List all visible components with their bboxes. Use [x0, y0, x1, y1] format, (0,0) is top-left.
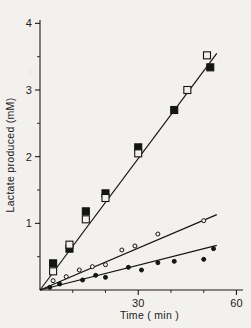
- data-point-filled-circles: [48, 285, 52, 289]
- series-filled-circles: [48, 247, 216, 290]
- y-axis-tick-label: 4: [26, 17, 32, 29]
- data-point-filled-squares: [207, 64, 214, 71]
- series-open-squares: [50, 52, 211, 275]
- data-point-open-squares: [102, 195, 109, 202]
- data-point-open-squares: [66, 241, 73, 248]
- data-point-filled-squares: [82, 208, 89, 215]
- data-point-open-circles: [90, 265, 94, 269]
- data-point-open-squares: [82, 216, 89, 223]
- data-point-open-squares: [184, 87, 191, 94]
- data-point-open-squares: [203, 52, 210, 59]
- data-point-filled-circles: [202, 257, 206, 261]
- series-open-circles: [51, 219, 206, 283]
- x-axis-tick-label: 60: [230, 297, 243, 309]
- data-point-filled-circles: [81, 278, 85, 282]
- data-point-filled-circles: [126, 265, 130, 269]
- data-point-open-circles: [202, 219, 206, 223]
- y-axis-title: Lactate produced (mM): [4, 98, 16, 213]
- data-point-filled-circles: [94, 273, 98, 277]
- data-point-open-circles: [156, 232, 160, 236]
- data-point-open-circles: [103, 263, 107, 267]
- lactate-production-scatter-plot: 12343060Time ( min )Lactate produced (mM…: [0, 0, 251, 328]
- data-point-filled-circles: [58, 282, 62, 286]
- data-point-filled-squares: [50, 260, 57, 267]
- data-point-open-circles: [51, 279, 55, 283]
- data-point-filled-circles: [156, 261, 160, 265]
- data-point-open-circles: [133, 244, 137, 248]
- data-point-open-squares: [135, 150, 142, 157]
- data-point-open-circles: [64, 275, 68, 279]
- data-point-open-circles: [120, 248, 124, 252]
- series-filled-squares: [50, 64, 214, 267]
- x-axis-title: Time ( min ): [120, 309, 179, 321]
- x-axis-tick-label: 30: [132, 297, 145, 309]
- data-point-filled-circles: [212, 247, 216, 251]
- data-point-open-circles: [77, 268, 81, 272]
- y-axis-tick-label: 3: [26, 84, 32, 96]
- data-point-open-squares: [50, 268, 57, 275]
- data-point-filled-squares: [171, 107, 178, 114]
- chart-figure: 12343060Time ( min )Lactate produced (mM…: [0, 0, 251, 328]
- data-point-filled-circles: [140, 268, 144, 272]
- data-point-filled-circles: [172, 259, 176, 263]
- y-axis-tick-label: 1: [26, 217, 32, 229]
- y-axis-tick-label: 2: [26, 151, 32, 163]
- data-point-filled-circles: [103, 275, 107, 279]
